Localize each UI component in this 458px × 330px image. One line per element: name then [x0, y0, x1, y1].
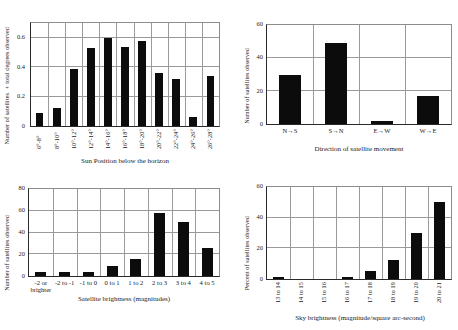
bar — [371, 121, 392, 124]
x-axis-tick-slot: 15 to 16 — [313, 282, 336, 303]
x-axis-tick-slot: W→E — [405, 128, 451, 135]
x-axis-tick-label: 1 to 2 — [128, 280, 143, 294]
bar-series-satellite-brightness — [29, 189, 219, 276]
plot-area-sun-position — [30, 22, 220, 127]
y-axis-tick-label: 0 — [260, 121, 263, 127]
x-axis-tick-slot: 22°-24° — [168, 129, 185, 149]
bar — [104, 38, 112, 126]
bar — [279, 75, 300, 125]
x-axis-tick-label: -2 to -1 — [55, 280, 74, 294]
y-axis-tick-label: 60 — [257, 21, 263, 27]
x-axis-tick-label: 22°-24° — [173, 129, 179, 149]
x-axis-tick-slot: 16 to 17 — [336, 282, 359, 303]
bar-slot — [134, 23, 151, 126]
x-axis-ticks-direction: N→SS→NE→WW→E — [267, 128, 451, 135]
plot-area-sky-brightness — [266, 186, 452, 280]
x-axis-ticks-sky-brightness: 13 to 1414 to 1515 to 1616 to 1717 to 18… — [267, 282, 451, 303]
x-axis-tick-label: 16°-18° — [122, 129, 128, 149]
bar — [53, 108, 61, 126]
x-axis-tick-label: E→W — [374, 128, 391, 135]
x-axis-tick-slot: N→S — [267, 128, 313, 135]
y-axis-tick-label: 0.2 — [17, 93, 25, 99]
x-axis-ticks-satellite-brightness: -2 orbrighter-2 to -1-1 to 00 to 11 to 2… — [29, 280, 219, 294]
x-axis-tick-label: 24°-26° — [190, 129, 196, 149]
x-axis-title-satellite-brightness: Satellite brightness (magnitudes) — [28, 296, 220, 303]
bar — [202, 248, 213, 276]
bar-slot — [359, 187, 382, 279]
x-axis-tick-label: 18°-20° — [139, 129, 145, 149]
x-axis-tick-slot: 14 to 15 — [290, 282, 313, 303]
y-axis-tick-label: 20 — [257, 245, 263, 251]
bar-slot — [405, 187, 428, 279]
x-axis-tick-slot: 24°-26° — [185, 129, 202, 149]
x-axis-title-sky-brightness: Sky brightness (magnitude/square arc-sec… — [262, 315, 458, 322]
x-axis-tick-slot: 8°-10° — [48, 129, 65, 149]
bar — [325, 43, 346, 124]
x-axis-tick-label: 8°-10° — [54, 129, 60, 149]
x-axis-tick-label: 20 to 21 — [436, 282, 442, 303]
bar — [59, 272, 70, 276]
chart-panel-direction: Number of satellites observed 0204060 N→… — [240, 2, 458, 170]
bar-slot — [359, 25, 405, 124]
bar — [417, 96, 438, 124]
plot-area-satellite-brightness — [28, 188, 220, 277]
bar-slot — [185, 23, 202, 126]
bar — [155, 73, 163, 126]
x-axis-tick-label: 14 to 15 — [298, 282, 304, 303]
x-axis-tick-slot: -2 orbrighter — [29, 280, 53, 294]
chart-panel-satellite-brightness: Number of satellites observed 020406080 … — [0, 176, 232, 330]
bar-slot — [202, 23, 219, 126]
x-axis-tick-label: 12°-14° — [88, 129, 94, 149]
x-axis-tick-slot: 2 to 3 — [148, 280, 172, 294]
y-axis-tick-label: 80 — [19, 185, 25, 191]
x-axis-tick-slot: 1 to 2 — [124, 280, 148, 294]
bar-slot — [313, 25, 359, 124]
bar — [388, 260, 399, 279]
bar — [87, 48, 95, 126]
bar — [342, 277, 353, 279]
y-axis-ticks-sun-position: 00.20.40.6 — [10, 22, 26, 126]
y-axis-tick-label: 60 — [19, 207, 25, 213]
x-axis-tick-slot: 20°-22° — [151, 129, 168, 149]
bar-slot — [267, 25, 313, 124]
figure-canvas: Number of satellites ÷ total degrees obs… — [0, 0, 458, 330]
x-axis-tick-label: 2 to 3 — [152, 280, 167, 294]
y-axis-tick-label: 0.6 — [17, 34, 25, 40]
x-axis-tick-slot: E→W — [359, 128, 405, 135]
y-axis-tick-label: 0 — [22, 273, 25, 279]
y-axis-tick-label: 40 — [19, 229, 25, 235]
y-axis-tick-label: 20 — [19, 251, 25, 257]
x-axis-tick-label: 20°-22° — [156, 129, 162, 149]
x-axis-tick-slot: 26°-28° — [202, 129, 219, 149]
x-axis-tick-slot: 12°-14° — [82, 129, 99, 149]
bar-slot — [405, 25, 451, 124]
bar — [36, 113, 44, 126]
x-axis-tick-label: 14°-16° — [105, 129, 111, 149]
bar-slot — [77, 189, 101, 276]
bar-slot — [148, 189, 172, 276]
bar — [70, 69, 78, 126]
y-axis-tick-label: 0 — [22, 123, 25, 129]
x-axis-tick-slot: S→N — [313, 128, 359, 135]
x-axis-tick-slot: -2 to -1 — [53, 280, 77, 294]
x-axis-tick-slot: -1 to 0 — [77, 280, 101, 294]
bar-slot — [382, 187, 405, 279]
x-axis-tick-slot: 16°-18° — [116, 129, 133, 149]
plot-area-direction — [266, 24, 452, 125]
bar-slot — [195, 189, 219, 276]
y-axis-tick-label: 0 — [260, 276, 263, 282]
bar-slot — [151, 23, 168, 126]
x-axis-tick-label: 10°-12° — [71, 129, 77, 149]
y-axis-ticks-sky-brightness: 0204060 — [248, 186, 264, 279]
x-axis-tick-label: S→N — [328, 128, 343, 135]
x-axis-tick-label: 0 to 1 — [105, 280, 120, 294]
bar-slot — [336, 187, 359, 279]
bar — [434, 202, 445, 279]
y-axis-ticks-satellite-brightness: 020406080 — [10, 188, 26, 276]
bar-slot — [290, 187, 313, 279]
bar-slot — [31, 23, 48, 126]
x-axis-tick-slot: 4 to 5 — [195, 280, 219, 294]
bar — [207, 76, 215, 126]
bar — [154, 213, 165, 276]
y-axis-tick-label: 40 — [257, 54, 263, 60]
